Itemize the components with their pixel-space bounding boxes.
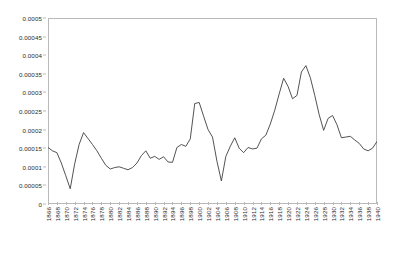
x-tick-mark bbox=[92, 202, 93, 205]
x-tick-label: 1934 bbox=[347, 207, 354, 221]
x-tick-mark bbox=[199, 202, 200, 205]
data-series-line bbox=[48, 18, 377, 204]
x-tick-mark bbox=[217, 202, 218, 205]
x-tick-label: 1926 bbox=[311, 207, 318, 221]
y-axis: 00.000050.00010.000150.00020.000250.0003… bbox=[0, 18, 46, 204]
y-tick-mark bbox=[43, 129, 46, 130]
x-tick-label: 1918 bbox=[276, 207, 283, 221]
y-tick-label: 0.0003 bbox=[22, 89, 42, 96]
x-tick-label: 1870 bbox=[62, 207, 69, 221]
x-tick-mark bbox=[297, 202, 298, 205]
x-tick-mark bbox=[75, 202, 76, 205]
x-tick-mark bbox=[137, 202, 138, 205]
y-tick-label: 0.0001 bbox=[22, 163, 42, 170]
x-tick-label: 1940 bbox=[374, 207, 381, 221]
x-tick-label: 1936 bbox=[356, 207, 363, 221]
x-tick-label: 1896 bbox=[178, 207, 185, 221]
x-tick-mark bbox=[235, 202, 236, 205]
x-tick-mark bbox=[306, 202, 307, 205]
y-tick-label: 0.00025 bbox=[19, 108, 42, 115]
x-tick-label: 1928 bbox=[320, 207, 327, 221]
y-tick-mark bbox=[43, 92, 46, 93]
x-tick-label: 1866 bbox=[45, 207, 52, 221]
x-tick-mark bbox=[359, 202, 360, 205]
x-tick-label: 1872 bbox=[71, 207, 78, 221]
y-tick-mark bbox=[43, 18, 46, 19]
x-tick-label: 1930 bbox=[329, 207, 336, 221]
x-tick-mark bbox=[208, 202, 209, 205]
y-tick-mark bbox=[43, 166, 46, 167]
x-tick-mark bbox=[350, 202, 351, 205]
x-tick-mark bbox=[253, 202, 254, 205]
x-tick-mark bbox=[110, 202, 111, 205]
x-tick-mark bbox=[57, 202, 58, 205]
x-tick-mark bbox=[324, 202, 325, 205]
y-tick-mark bbox=[43, 148, 46, 149]
x-tick-label: 1900 bbox=[196, 207, 203, 221]
x-tick-label: 1876 bbox=[89, 207, 96, 221]
x-tick-label: 1920 bbox=[285, 207, 292, 221]
line-chart: 00.000050.00010.000150.00020.000250.0003… bbox=[0, 0, 394, 257]
x-tick-mark bbox=[270, 202, 271, 205]
x-tick-label: 1932 bbox=[338, 207, 345, 221]
x-tick-label: 1914 bbox=[258, 207, 265, 221]
y-tick-label: 0.00015 bbox=[19, 145, 42, 152]
x-tick-mark bbox=[190, 202, 191, 205]
series-polyline bbox=[48, 66, 377, 189]
x-tick-mark bbox=[341, 202, 342, 205]
x-tick-mark bbox=[261, 202, 262, 205]
x-tick-label: 1884 bbox=[125, 207, 132, 221]
x-tick-mark bbox=[368, 202, 369, 205]
x-tick-mark bbox=[279, 202, 280, 205]
x-tick-label: 1874 bbox=[80, 207, 87, 221]
y-tick-mark bbox=[43, 204, 46, 205]
x-tick-label: 1938 bbox=[365, 207, 372, 221]
y-tick-mark bbox=[43, 185, 46, 186]
x-tick-mark bbox=[377, 202, 378, 205]
x-tick-label: 1880 bbox=[107, 207, 114, 221]
y-tick-label: 0.00005 bbox=[19, 182, 42, 189]
y-tick-label: 0.0004 bbox=[22, 52, 42, 59]
x-tick-mark bbox=[181, 202, 182, 205]
x-tick-mark bbox=[164, 202, 165, 205]
y-tick-label: 0.00035 bbox=[19, 70, 42, 77]
x-tick-mark bbox=[155, 202, 156, 205]
x-tick-label: 1894 bbox=[169, 207, 176, 221]
x-tick-label: 1878 bbox=[98, 207, 105, 221]
x-tick-label: 1922 bbox=[293, 207, 300, 221]
x-tick-label: 1910 bbox=[240, 207, 247, 221]
x-tick-label: 1916 bbox=[267, 207, 274, 221]
x-tick-mark bbox=[315, 202, 316, 205]
x-tick-label: 1868 bbox=[53, 207, 60, 221]
x-tick-label: 1902 bbox=[205, 207, 212, 221]
plot-area bbox=[48, 18, 377, 204]
x-tick-label: 1882 bbox=[116, 207, 123, 221]
y-tick-mark bbox=[43, 36, 46, 37]
y-tick-mark bbox=[43, 55, 46, 56]
y-tick-label: 0.0005 bbox=[22, 15, 42, 22]
x-tick-mark bbox=[146, 202, 147, 205]
x-tick-mark bbox=[101, 202, 102, 205]
x-tick-label: 1898 bbox=[187, 207, 194, 221]
x-tick-label: 1924 bbox=[302, 207, 309, 221]
x-tick-mark bbox=[48, 202, 49, 205]
x-tick-mark bbox=[66, 202, 67, 205]
x-tick-label: 1888 bbox=[142, 207, 149, 221]
x-tick-label: 1892 bbox=[160, 207, 167, 221]
y-tick-label: 0.00045 bbox=[19, 33, 42, 40]
y-tick-label: 0.0002 bbox=[22, 126, 42, 133]
x-tick-label: 1904 bbox=[213, 207, 220, 221]
x-tick-label: 1912 bbox=[249, 207, 256, 221]
x-tick-mark bbox=[128, 202, 129, 205]
x-tick-mark bbox=[244, 202, 245, 205]
x-tick-label: 1908 bbox=[231, 207, 238, 221]
x-tick-label: 1886 bbox=[133, 207, 140, 221]
x-tick-mark bbox=[333, 202, 334, 205]
y-tick-label: 0 bbox=[38, 201, 42, 208]
x-tick-mark bbox=[288, 202, 289, 205]
y-tick-mark bbox=[43, 111, 46, 112]
x-tick-label: 1890 bbox=[151, 207, 158, 221]
x-axis: 1866186818701872187418761878188018821884… bbox=[48, 205, 377, 255]
x-tick-mark bbox=[172, 202, 173, 205]
x-tick-mark bbox=[119, 202, 120, 205]
